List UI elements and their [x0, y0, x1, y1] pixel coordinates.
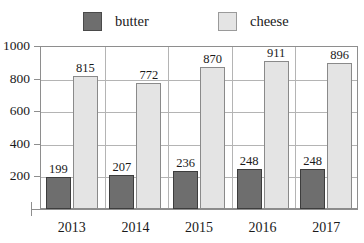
legend-item-cheese[interactable]: cheese [218, 8, 289, 34]
x-tick-label-2013: 2013 [58, 221, 86, 235]
x-axis-line [31, 209, 358, 210]
group-separator-1 [105, 47, 106, 208]
y-tick-label-600: 600 [10, 104, 30, 118]
group-separator-4 [295, 47, 296, 208]
x-tick-label-2014: 2014 [121, 221, 149, 235]
legend-item-butter[interactable]: butter [83, 8, 149, 34]
group-separator-2 [168, 47, 169, 208]
x-tick-label-2015: 2015 [185, 221, 213, 235]
grouped-bar-chart: butter cheese 2004006008001000 199815207… [0, 0, 364, 243]
y-tick-label-400: 400 [10, 137, 30, 151]
legend-label-butter: butter [115, 14, 149, 29]
x-axis: 20132014201520162017 [40, 209, 358, 243]
plot-area [40, 46, 358, 209]
gridline-y-200 [41, 177, 357, 178]
x-axis-origin-tick [31, 202, 32, 216]
gridline-y-800 [41, 80, 357, 81]
legend-label-cheese: cheese [250, 14, 289, 29]
gridline-y-600 [41, 112, 357, 113]
chart-legend: butter cheese [0, 8, 364, 36]
cheese-legend-swatch-icon [218, 12, 237, 31]
y-tick-label-200: 200 [10, 170, 30, 184]
x-tick-label-2016: 2016 [249, 221, 277, 235]
y-axis: 2004006008001000 [0, 46, 36, 209]
group-separator-3 [232, 47, 233, 208]
y-tick-label-800: 800 [10, 72, 30, 86]
y-tick-label-1000: 1000 [3, 39, 30, 53]
x-tick-label-2017: 2017 [312, 221, 340, 235]
butter-legend-swatch-icon [83, 12, 102, 31]
gridline-y-400 [41, 145, 357, 146]
